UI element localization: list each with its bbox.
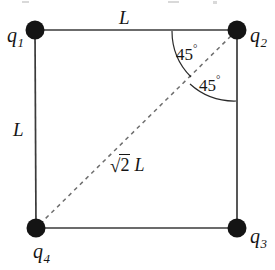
diagonal-radicand: 2 xyxy=(119,154,130,175)
side-length-label-top: L xyxy=(119,8,130,27)
charge-dot-q4 xyxy=(27,219,46,238)
charge-label-q1-subscript: 1 xyxy=(18,35,25,50)
charge-label-q4-base: q xyxy=(33,240,43,262)
degree-symbol-icon: ° xyxy=(216,73,220,85)
charge-label-q4-subscript: 4 xyxy=(44,251,51,266)
side-length-label-left: L xyxy=(13,120,24,139)
angle-label-lower-value: 45 xyxy=(199,76,216,95)
charge-square-figure: q1 q2 q3 q4 L L 45° 45° √2L xyxy=(0,0,275,270)
diagonal-dashed-line xyxy=(40,34,233,224)
angle-label-lower: 45° xyxy=(199,75,220,94)
charge-label-q3-base: q xyxy=(250,225,260,247)
charge-dot-q2 xyxy=(228,21,247,40)
charge-label-q2: q2 xyxy=(250,25,267,45)
charge-dot-q3 xyxy=(228,219,247,238)
radical-symbol-icon: √ xyxy=(110,155,120,176)
charge-label-q2-base: q xyxy=(250,24,260,46)
charge-label-q2-subscript: 2 xyxy=(261,35,268,50)
degree-symbol-icon: ° xyxy=(193,42,197,54)
figure-canvas xyxy=(0,0,275,270)
angle-label-upper-value: 45 xyxy=(176,45,193,64)
charge-label-q3-subscript: 3 xyxy=(261,236,268,251)
charge-label-q4: q4 xyxy=(33,241,50,261)
charge-label-q3: q3 xyxy=(250,226,267,246)
charge-label-q1: q1 xyxy=(7,25,24,45)
charge-dot-q1 xyxy=(26,21,45,40)
charge-label-q1-base: q xyxy=(7,24,17,46)
angle-label-upper: 45° xyxy=(176,44,197,63)
diagonal-length-label: √2L xyxy=(110,155,144,174)
diagonal-length-unit: L xyxy=(134,155,144,175)
square-edge-left xyxy=(35,30,36,228)
